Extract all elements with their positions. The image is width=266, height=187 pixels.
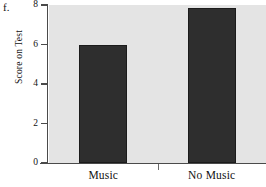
bar [79, 45, 127, 164]
y-tick-label: 2 [16, 119, 38, 129]
part-label: f. [3, 2, 10, 13]
x-axis-category-label: No Music [152, 170, 266, 182]
y-tick-label: 8 [16, 0, 38, 10]
y-axis-line [47, 4, 48, 164]
y-tick-label: 6 [16, 40, 38, 50]
plot-area [49, 5, 266, 163]
bar [188, 8, 236, 163]
y-tick-mark [41, 4, 47, 5]
y-tick-label: 0 [16, 158, 38, 168]
y-tick-mark [41, 83, 47, 84]
y-tick-mark [41, 44, 47, 45]
x-axis-line [40, 163, 266, 164]
y-tick-mark [41, 162, 47, 163]
y-tick-mark [41, 123, 47, 124]
y-tick-label: 4 [16, 79, 38, 89]
figure-panel: f. Score on Test 02468 MusicNo Music [0, 0, 266, 187]
y-axis-title: Score on Test [14, 12, 24, 102]
x-axis-category-label: Music [43, 170, 163, 182]
